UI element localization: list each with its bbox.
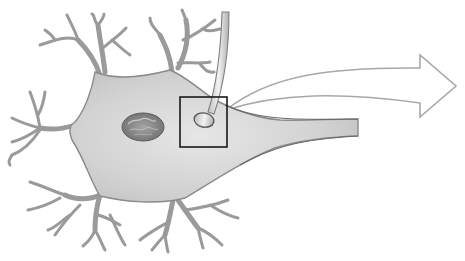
neuron-diagram	[0, 0, 465, 261]
neuron-illustration	[0, 0, 465, 261]
magnify-arrow	[226, 55, 456, 117]
nucleus	[122, 113, 164, 141]
